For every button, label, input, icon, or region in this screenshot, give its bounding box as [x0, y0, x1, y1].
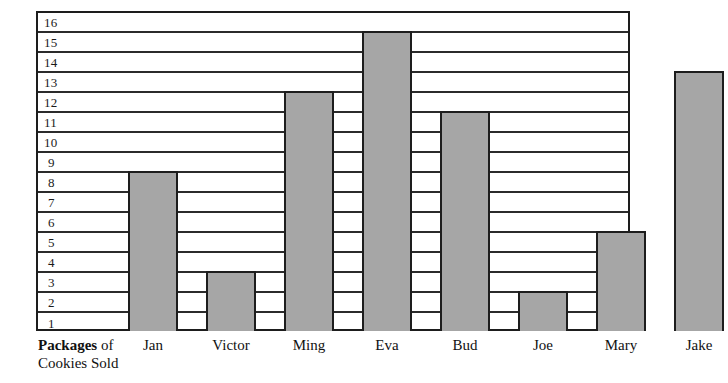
x-axis-labels: Packages of Cookies Sold Jan Victor Ming…: [36, 336, 636, 380]
y-tick-label: 8: [48, 176, 55, 189]
x-tick-label-mary: Mary: [582, 336, 660, 354]
bar-eva[interactable]: [362, 31, 412, 331]
y-tick-label: 11: [44, 116, 57, 129]
grid-row: 14: [38, 53, 628, 73]
y-tick-label: 10: [44, 136, 57, 149]
y-tick-label: 13: [44, 76, 57, 89]
axis-caption-line2: Cookies Sold: [38, 355, 118, 371]
y-tick-label: 12: [44, 96, 57, 109]
y-tick-label: 1: [48, 317, 55, 330]
y-tick-label: 5: [48, 236, 55, 249]
y-tick-label: 6: [48, 216, 55, 229]
x-tick-label-jake: Jake: [660, 336, 728, 354]
x-tick-label-bud: Bud: [426, 336, 504, 354]
y-tick-label: 15: [44, 36, 57, 49]
x-tick-label-victor: Victor: [192, 336, 270, 354]
y-tick-label: 9: [48, 156, 55, 169]
axis-caption-strong: Packages: [38, 337, 97, 353]
y-tick-label: 16: [44, 16, 57, 29]
bar-bud[interactable]: [440, 111, 490, 331]
bar-joe[interactable]: [518, 291, 568, 331]
x-tick-label-eva: Eva: [348, 336, 426, 354]
grid-row: 15: [38, 33, 628, 53]
x-tick-label-jan: Jan: [114, 336, 192, 354]
bar-jake[interactable]: [674, 71, 724, 331]
bar-ming[interactable]: [284, 91, 334, 331]
axis-caption-rest: of: [97, 337, 113, 353]
x-tick-label-ming: Ming: [270, 336, 348, 354]
y-tick-label: 14: [44, 56, 57, 69]
y-tick-label: 7: [48, 196, 55, 209]
y-tick-label: 3: [48, 276, 55, 289]
bar-mary[interactable]: [596, 231, 646, 331]
bar-victor[interactable]: [206, 271, 256, 331]
grid-row: 13: [38, 73, 628, 93]
grid-row: 16: [38, 13, 628, 33]
bar-jan[interactable]: [128, 171, 178, 331]
y-tick-label: 2: [48, 296, 55, 309]
x-tick-label-joe: Joe: [504, 336, 582, 354]
y-tick-label: 4: [48, 256, 55, 269]
